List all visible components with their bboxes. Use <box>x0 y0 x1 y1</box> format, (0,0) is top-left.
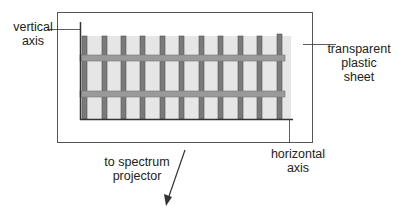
horizontal-axis-label: horizontal axis <box>262 147 334 175</box>
vertical-bar <box>102 36 107 119</box>
vertical-bar <box>257 36 262 119</box>
vertical-axis-label-line1: vertical <box>2 20 64 34</box>
vertical-bar <box>199 36 204 119</box>
horizontal-strip <box>80 55 285 61</box>
transparent-sheet-label: transparent plastic sheet <box>326 42 392 84</box>
vertical-bar <box>121 36 126 119</box>
vertical-bar <box>179 36 184 119</box>
projector-label: to spectrum projector <box>82 155 192 183</box>
vertical-axis-label-line2: axis <box>2 34 64 48</box>
vertical-bar <box>82 36 87 119</box>
projector-label-line2: projector <box>82 169 192 183</box>
vertical-bar <box>140 36 145 119</box>
diagram-root: vertical axis transparent plastic sheet … <box>0 0 401 215</box>
horizontal-axis-label-line1: horizontal <box>262 147 334 161</box>
vertical-bar <box>160 36 165 119</box>
vertical-bar <box>238 36 243 119</box>
sheet-label-line3: sheet <box>326 70 392 84</box>
vertical-bar <box>218 36 223 119</box>
vertical-bar <box>277 34 282 119</box>
projector-label-line1: to spectrum <box>82 155 192 169</box>
vertical-axis-label: vertical axis <box>2 20 64 48</box>
sheet-label-line2: plastic <box>326 56 392 70</box>
horizontal-strip <box>80 91 285 97</box>
horizontal-axis-label-line2: axis <box>262 161 334 175</box>
sheet-label-line1: transparent <box>326 42 392 56</box>
